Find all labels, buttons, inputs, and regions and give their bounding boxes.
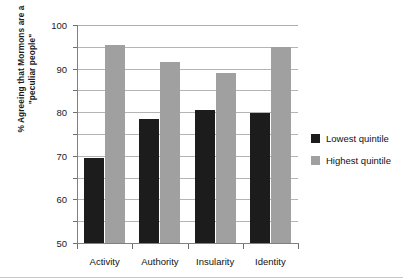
- bar: [250, 113, 270, 243]
- x-tick: [298, 244, 299, 249]
- legend-label: Lowest quintile: [326, 133, 389, 144]
- x-tick: [132, 244, 133, 249]
- bar: [84, 158, 104, 243]
- legend-swatch-icon: [311, 156, 320, 165]
- y-tick-label: 50: [37, 238, 67, 249]
- y-tick: 20: [73, 199, 77, 200]
- bar: [105, 45, 125, 243]
- bar: [195, 110, 215, 243]
- y-tick: 30: [73, 178, 77, 179]
- x-tick: [243, 244, 244, 249]
- y-tick: 10: [73, 221, 77, 222]
- plot-area: 0102030405060708090100 ActivityAuthority…: [77, 25, 298, 243]
- y-tick: 70: [73, 90, 77, 91]
- x-tick: [188, 244, 189, 249]
- legend-item: Highest quintile: [311, 149, 403, 171]
- legend-label: Highest quintile: [326, 155, 391, 166]
- y-tick-label: 100: [37, 20, 67, 31]
- y-tick: 100: [73, 25, 77, 26]
- bar: [216, 73, 236, 243]
- y-tick: 40: [73, 156, 77, 157]
- bar: [139, 119, 159, 243]
- bar: [160, 62, 180, 243]
- x-tick-label: Activity: [90, 256, 120, 267]
- y-tick-label: 90: [37, 63, 67, 74]
- legend-item: Lowest quintile: [311, 127, 403, 149]
- x-tick-label: Identity: [255, 256, 286, 267]
- legend-swatch-icon: [311, 134, 320, 143]
- y-tick: 90: [73, 47, 77, 48]
- x-tick: [77, 244, 78, 249]
- chart-figure: % Agreeing that Mormons are a "peculiar …: [0, 0, 403, 278]
- y-tick: 60: [73, 112, 77, 113]
- y-tick-label: 60: [37, 194, 67, 205]
- y-tick-label: 70: [37, 150, 67, 161]
- y-tick: 80: [73, 69, 77, 70]
- x-tick-label: Insularity: [196, 256, 234, 267]
- gridline: [78, 25, 298, 26]
- chart-legend: Lowest quintileHighest quintile: [311, 127, 403, 171]
- y-axis-title-line-1: % Agreeing that Mormons are a: [16, 5, 26, 132]
- y-tick-label: 80: [37, 107, 67, 118]
- y-tick: 50: [73, 134, 77, 135]
- x-tick-label: Authority: [141, 256, 179, 267]
- bar: [271, 47, 291, 243]
